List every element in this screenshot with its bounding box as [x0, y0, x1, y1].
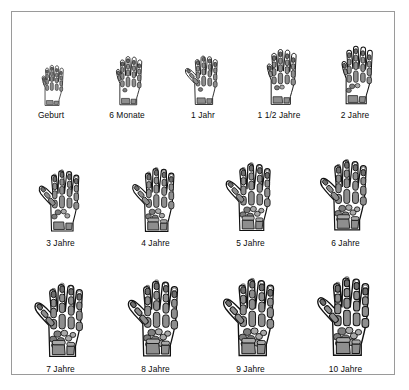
hand-xray-icon: [252, 34, 307, 109]
hand-xray-icon: [178, 41, 228, 109]
age-label: 1 1/2 Jahre: [257, 110, 300, 120]
age-label: 1 Jahr: [191, 110, 215, 120]
age-label: 4 Jahre: [141, 238, 170, 248]
hand-xray-icon: [310, 139, 381, 237]
age-label: 3 Jahre: [46, 238, 75, 248]
age-row-3: 7 Jahre8 Jahre9 Jahre10 Jahre: [12, 248, 394, 374]
hand-skeletal-maturation-figure: Geburt6 Monate1 Jahr1 1/2 Jahre2 Jahre 3…: [0, 0, 409, 390]
hand-xray-icon: [123, 149, 187, 237]
age-label: 6 Jahre: [331, 238, 360, 248]
age-cell: 2 Jahre: [317, 30, 393, 120]
age-cell: 1 1/2 Jahre: [241, 34, 317, 120]
age-cell: 8 Jahre: [108, 258, 203, 374]
age-label: 7 Jahre: [46, 364, 75, 374]
hand-xray-icon: [212, 256, 290, 363]
hand-xray-icon: [326, 30, 384, 109]
age-label: 2 Jahre: [341, 110, 370, 120]
age-label: Geburt: [38, 110, 64, 120]
age-cell: 6 Monate: [89, 43, 165, 120]
hand-xray-icon: [103, 43, 151, 109]
age-cell: Geburt: [13, 54, 89, 120]
age-cell: 5 Jahre: [203, 143, 298, 248]
age-row-2: 3 Jahre4 Jahre5 Jahre6 Jahre: [12, 120, 394, 248]
age-label: 9 Jahre: [236, 364, 265, 374]
hand-xray-icon: [117, 258, 193, 363]
hand-xray-icon: [24, 262, 98, 363]
age-cell: 9 Jahre: [203, 256, 298, 374]
age-cell: 10 Jahre: [298, 254, 393, 374]
age-label: 10 Jahre: [329, 364, 362, 374]
age-cell: 3 Jahre: [13, 152, 108, 248]
age-cell: 7 Jahre: [13, 262, 108, 374]
hand-xray-icon: [30, 152, 92, 237]
age-label: 5 Jahre: [236, 238, 265, 248]
age-cell: 1 Jahr: [165, 41, 241, 120]
hand-xray-icon: [31, 54, 71, 109]
hand-xray-icon: [306, 254, 385, 363]
age-row-1: Geburt6 Monate1 Jahr1 1/2 Jahre2 Jahre: [12, 16, 394, 120]
age-label: 6 Monate: [109, 110, 145, 120]
figure-frame: Geburt6 Monate1 Jahr1 1/2 Jahre2 Jahre 3…: [11, 11, 395, 375]
hand-xray-icon: [216, 143, 284, 237]
age-label: 8 Jahre: [141, 364, 170, 374]
age-cell: 4 Jahre: [108, 149, 203, 248]
age-cell: 6 Jahre: [298, 139, 393, 248]
